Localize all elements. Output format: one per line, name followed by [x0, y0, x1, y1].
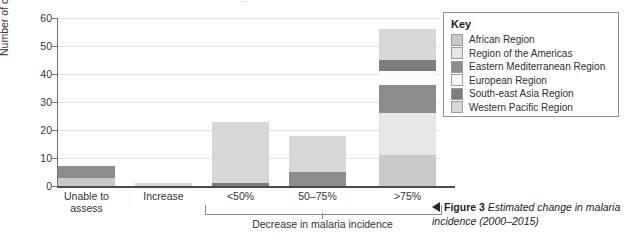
- legend-item-5: South-east Asia Region: [451, 87, 612, 101]
- bar-segment: [379, 60, 436, 71]
- legend-swatch: [451, 47, 463, 59]
- y-axis-tick-label: 60: [40, 12, 52, 24]
- bar-5: [379, 29, 436, 186]
- legend-items: African RegionRegion of the AmericasEast…: [451, 33, 612, 114]
- legend-label: African Region: [469, 34, 535, 45]
- bar-1: [58, 166, 115, 186]
- x-axis-label-3: <50%: [200, 190, 281, 202]
- bar-segment: [289, 136, 346, 172]
- legend-label: Western Pacific Region: [469, 102, 573, 113]
- x-axis-label-line: Unable to: [46, 190, 127, 202]
- legend-swatch: [451, 61, 463, 73]
- bar-segment: [58, 178, 115, 186]
- bar-segment: [212, 183, 269, 186]
- bar-segment: [58, 166, 115, 177]
- x-axis-group-bracket: [205, 205, 442, 215]
- caption-triangle-icon: [432, 202, 440, 212]
- x-axis-label-2: Increase: [123, 190, 204, 202]
- y-axis-tick: [52, 158, 58, 159]
- y-axis-tick: [52, 74, 58, 75]
- x-axis-label-line: <50%: [200, 190, 281, 202]
- figure-container: ˝˝ 0102030405060 Number of countries Una…: [0, 0, 627, 241]
- bar-segment: [379, 155, 436, 186]
- legend-label: South-east Asia Region: [469, 88, 574, 99]
- legend-swatch: [451, 34, 463, 46]
- bar-segment: [379, 113, 436, 155]
- y-axis-tick-label: 20: [40, 124, 52, 136]
- legend-item-1: African Region: [451, 33, 612, 47]
- x-axis-label-line: Increase: [123, 190, 204, 202]
- y-axis-tick: [52, 186, 58, 187]
- bar-segment: [212, 122, 269, 184]
- bar-segment: [379, 71, 436, 85]
- legend-item-6: Western Pacific Region: [451, 101, 612, 115]
- bar-segment: [135, 183, 192, 186]
- y-axis-tick-label: 10: [40, 152, 52, 164]
- caption-figure-number: Figure 3: [444, 201, 485, 213]
- x-axis-line: [57, 186, 455, 188]
- y-axis-tick-label: 50: [40, 40, 52, 52]
- y-axis-tick-labels: 0102030405060: [22, 18, 52, 188]
- legend-swatch: [451, 88, 463, 100]
- x-axis-label-4: 50–75%: [277, 190, 358, 202]
- y-axis-tick: [52, 102, 58, 103]
- page-bleed-artifact: ˝˝: [210, 0, 280, 8]
- legend-item-4: European Region: [451, 74, 612, 88]
- y-axis-tick-label: 30: [40, 96, 52, 108]
- bar-2: [135, 183, 192, 186]
- bar-4: [289, 136, 346, 186]
- y-axis-tick-label: 40: [40, 68, 52, 80]
- legend-box: Key African RegionRegion of the Americas…: [443, 12, 619, 117]
- y-axis-tick: [52, 130, 58, 131]
- x-axis-label-1: Unable toassess: [46, 190, 127, 214]
- plot-area: [58, 18, 440, 186]
- x-axis-label-line: 50–75%: [277, 190, 358, 202]
- bar-segment: [289, 172, 346, 186]
- y-axis-tick: [52, 46, 58, 47]
- legend-swatch: [451, 74, 463, 86]
- legend-title: Key: [451, 18, 612, 30]
- x-axis-label-line: assess: [46, 202, 127, 214]
- legend-item-2: Region of the Americas: [451, 47, 612, 61]
- legend-label: Eastern Mediterranean Region: [469, 61, 605, 72]
- x-axis-group-label: Decrease in malaria incidence: [205, 218, 440, 230]
- y-axis-tick: [52, 18, 58, 19]
- legend-swatch: [451, 101, 463, 113]
- bar-3: [212, 122, 269, 186]
- legend-label: Region of the Americas: [469, 48, 572, 59]
- gridline: [58, 18, 440, 19]
- bar-segment: [379, 85, 436, 113]
- bar-segment: [379, 29, 436, 60]
- figure-caption: Figure 3 Estimated change in malaria inc…: [432, 200, 624, 228]
- legend-item-3: Eastern Mediterranean Region: [451, 60, 612, 74]
- y-axis-title: Number of countries: [0, 0, 10, 56]
- legend-label: European Region: [469, 75, 547, 86]
